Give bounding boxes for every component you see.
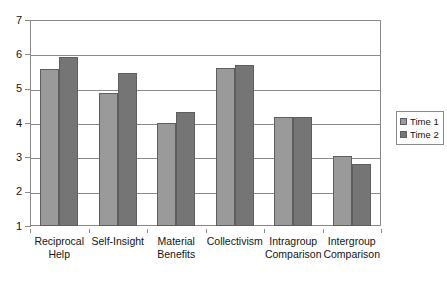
y-tick-label: 6 (16, 49, 22, 60)
bar (118, 73, 137, 226)
bar (274, 117, 293, 226)
legend-item: Time 1 (400, 115, 439, 128)
x-category-label: Intragroup Comparison (261, 235, 325, 261)
bar (157, 123, 176, 226)
x-tick-mark (147, 229, 148, 233)
legend: Time 1 Time 2 (396, 111, 444, 145)
x-category-label: Reciprocal Help (27, 235, 91, 261)
y-tick-mark (25, 226, 31, 227)
x-category-label: Material Benefits (144, 235, 208, 261)
x-category-label: Intergroup Comparison (320, 235, 384, 261)
bar (59, 57, 78, 226)
bar (352, 164, 371, 226)
y-tick-label: 7 (16, 15, 22, 26)
legend-swatch-icon (400, 118, 407, 125)
y-axis: 1234567 (0, 0, 30, 284)
y-tick-label: 1 (16, 221, 22, 232)
x-tick-mark (206, 229, 207, 233)
x-tick-mark (323, 229, 324, 233)
x-tick-mark (264, 229, 265, 233)
y-tick-label: 3 (16, 152, 22, 163)
legend-swatch-icon (400, 131, 407, 138)
legend-item: Time 2 (400, 128, 439, 141)
bar-chart: 1234567 Reciprocal HelpSelf-InsightMater… (0, 0, 447, 284)
bar (333, 156, 352, 226)
bar (40, 69, 59, 226)
y-tick-label: 2 (16, 186, 22, 197)
x-category-label: Self-Insight (86, 235, 150, 248)
x-category-label: Collectivism (203, 235, 267, 248)
bars-layer (30, 20, 381, 226)
bar (176, 112, 195, 226)
bar (216, 68, 235, 226)
x-axis: Reciprocal HelpSelf-InsightMaterial Bene… (30, 229, 381, 279)
y-tick-label: 5 (16, 83, 22, 94)
bar (235, 65, 254, 226)
bar (99, 93, 118, 226)
x-tick-mark (89, 229, 90, 233)
y-tick-label: 4 (16, 118, 22, 129)
legend-item-label: Time 2 (410, 130, 439, 140)
x-tick-mark (381, 229, 382, 233)
x-tick-mark (30, 229, 31, 233)
legend-item-label: Time 1 (410, 117, 439, 127)
bar (293, 117, 312, 226)
